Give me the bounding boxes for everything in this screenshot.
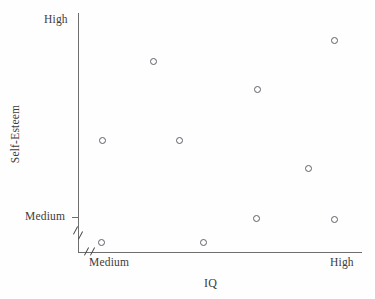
- data-point: [253, 215, 260, 222]
- data-point: [331, 37, 338, 44]
- data-point: [99, 137, 106, 144]
- data-point: [305, 165, 312, 172]
- data-point: [98, 239, 105, 246]
- data-point: [200, 239, 207, 246]
- data-point: [254, 86, 261, 93]
- data-point: [331, 216, 338, 223]
- scatter-plot-figure: High Medium Medium High IQ Self-Esteem: [0, 0, 375, 299]
- data-points-layer: [0, 0, 375, 299]
- data-point: [176, 137, 183, 144]
- data-point: [150, 58, 157, 65]
